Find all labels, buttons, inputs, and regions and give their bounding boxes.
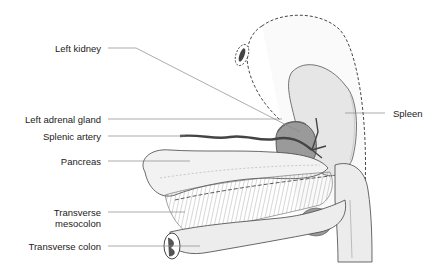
- label-left-adrenal-gland: Left adrenal gland: [25, 114, 101, 125]
- label-spleen: Spleen: [393, 108, 423, 119]
- label-transverse-colon: Transverse colon: [28, 241, 101, 252]
- label-transverse-mesocolon-line1: Transverse: [54, 207, 101, 218]
- label-splenic-artery: Splenic artery: [43, 131, 101, 142]
- label-pancreas: Pancreas: [61, 156, 101, 167]
- anatomy-diagram: Left kidney Left adrenal gland Splenic a…: [0, 0, 445, 277]
- label-transverse-mesocolon-line2: mesocolon: [55, 218, 101, 229]
- label-left-kidney: Left kidney: [55, 43, 101, 54]
